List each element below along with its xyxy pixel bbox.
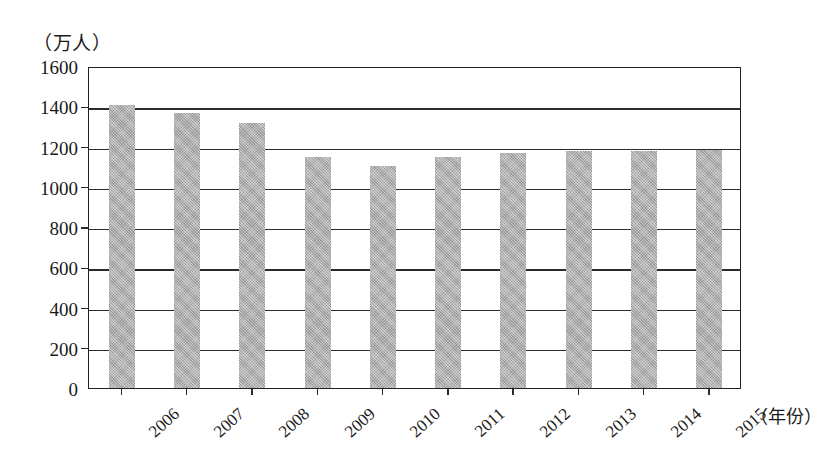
y-tick-mark: [81, 308, 88, 309]
x-tick-label: 2013: [602, 405, 639, 440]
y-tick-mark: [81, 187, 88, 188]
bar-chart: （万人） 16001400120010008006004002000 20062…: [0, 0, 837, 475]
x-tick-label: 2006: [145, 405, 182, 440]
x-tick-label: 2007: [211, 405, 248, 440]
x-axis-labels: 2006200720082009201020112012201320142015: [88, 389, 741, 459]
x-tick-label: 2014: [668, 405, 705, 440]
y-tick-label: 1600: [0, 58, 78, 77]
y-tick-label: 1200: [0, 138, 78, 157]
y-tick-label: 600: [0, 259, 78, 278]
y-tick-label: 0: [0, 380, 78, 399]
x-tick-label: 2012: [537, 405, 574, 440]
x-axis-title: （年份）: [750, 402, 822, 428]
y-tick-label: 1000: [0, 178, 78, 197]
y-tick-mark: [81, 348, 88, 349]
y-tick-label: 1400: [0, 98, 78, 117]
x-tick-label: 2011: [472, 405, 508, 440]
y-tick-mark: [81, 107, 88, 108]
y-tick-label: 400: [0, 299, 78, 318]
y-tick-mark: [81, 268, 88, 269]
x-tick-label: 2008: [276, 405, 313, 440]
y-tick-label: 800: [0, 219, 78, 238]
y-tick-mark: [81, 227, 88, 228]
y-tick-label: 200: [0, 339, 78, 358]
y-tick-mark: [81, 147, 88, 148]
x-tick-label: 2009: [341, 405, 378, 440]
x-tick-label: 2010: [407, 405, 444, 440]
